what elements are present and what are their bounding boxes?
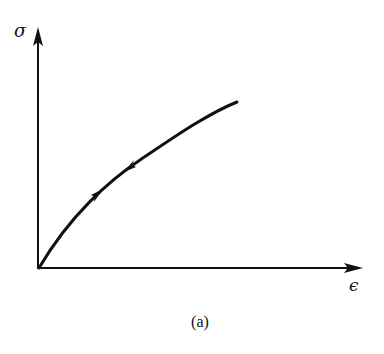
unloading-direction-arrow-icon (124, 160, 136, 172)
strain-axis (37, 263, 363, 273)
figure-caption: (a) (0, 313, 384, 331)
stress-strain-curve (39, 102, 237, 268)
stress-axis (33, 27, 43, 269)
stress-axis-label: σ (14, 20, 26, 41)
stress-strain-figure: σ ϵ (a) (0, 0, 384, 354)
strain-axis-label: ϵ (349, 275, 359, 295)
stress-strain-diagram (0, 0, 384, 354)
